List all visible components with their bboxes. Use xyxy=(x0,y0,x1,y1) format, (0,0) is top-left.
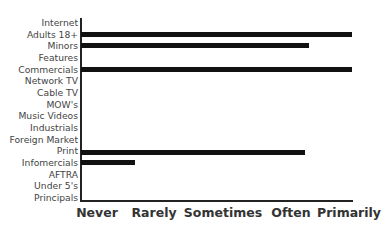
x-tick-never: Never xyxy=(76,205,118,220)
x-tick-sometimes: Sometimes xyxy=(184,205,262,220)
category-label: Commercials xyxy=(18,64,78,75)
frequency-bar-chart: Internet Adults 18+ Minors Features Comm… xyxy=(0,0,390,233)
x-tick-often: Often xyxy=(271,205,310,220)
category-label: Under 5's xyxy=(34,180,78,191)
category-label: Principals xyxy=(34,192,78,203)
category-label: Print xyxy=(57,145,78,156)
x-tick-rarely: Rarely xyxy=(131,205,176,220)
category-label: Adults 18+ xyxy=(27,29,78,40)
category-label: AFTRA xyxy=(49,169,78,180)
x-tick-primarily: Primarily xyxy=(317,205,381,220)
bar-print xyxy=(81,150,305,155)
category-label: Infomercials xyxy=(22,157,78,168)
bar-infomercials xyxy=(81,160,135,165)
bar-minors xyxy=(81,43,309,48)
category-label: MOW's xyxy=(46,99,78,110)
bar-adults-18plus xyxy=(81,32,352,37)
category-label: Internet xyxy=(42,17,78,28)
x-axis-line xyxy=(80,200,353,202)
category-label: Foreign Market xyxy=(9,134,78,145)
category-label: Cable TV xyxy=(37,87,78,98)
category-label: Features xyxy=(38,52,78,63)
category-label: Minors xyxy=(48,40,79,51)
category-label: Network TV xyxy=(25,75,78,86)
bar-commercials xyxy=(81,67,352,72)
category-label: Industrials xyxy=(30,122,78,133)
category-label: Music Videos xyxy=(18,110,78,121)
